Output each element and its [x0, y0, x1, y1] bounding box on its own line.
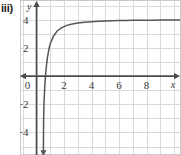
- y-tick-label: −4: [20, 126, 29, 138]
- y-tick-label: −2: [20, 98, 29, 110]
- x-tick-label: 0: [25, 79, 31, 91]
- x-tick-label: 6: [116, 79, 122, 91]
- y-tick-label: 4: [23, 14, 29, 26]
- y-tick-label: 2: [23, 42, 29, 54]
- plot-area: 02468 42−2−4 x y: [20, 0, 181, 155]
- part-label: iii): [1, 2, 13, 14]
- x-tick-label: 2: [61, 79, 67, 91]
- coordinate-plane-svg: 02468 42−2−4 x y: [20, 0, 181, 155]
- x-axis-label: x: [170, 79, 176, 90]
- y-axis-label: y: [26, 1, 32, 12]
- figure-root: iii) 02468 42−2−4 x y: [0, 0, 181, 155]
- plot-background: [21, 1, 181, 155]
- x-tick-label: 4: [89, 79, 95, 91]
- x-tick-label: 8: [144, 79, 150, 91]
